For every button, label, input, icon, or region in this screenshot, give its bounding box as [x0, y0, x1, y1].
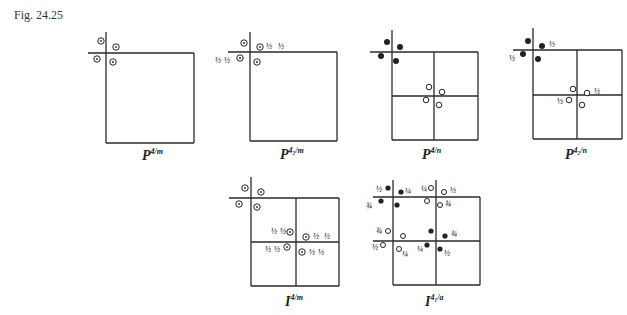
- svg-text:½: ½: [324, 232, 330, 241]
- svg-text:½: ½: [444, 249, 450, 258]
- svg-text:¼: ¼: [405, 186, 411, 195]
- diagram-p42m: ½ ½ ½ ½: [215, 32, 337, 141]
- svg-text:½: ½: [549, 40, 555, 49]
- caption-p4m: P4/m: [142, 147, 163, 164]
- svg-text:½: ½: [313, 232, 319, 241]
- svg-text:¾: ¾: [451, 229, 457, 238]
- caption-p42n: P4₂/n: [565, 146, 587, 163]
- svg-text:½: ½: [280, 227, 286, 236]
- svg-text:½: ½: [274, 245, 280, 254]
- svg-text:¾: ¾: [376, 226, 382, 235]
- circle-dot-symbol: [110, 59, 116, 65]
- svg-text:½: ½: [266, 42, 272, 51]
- svg-text:¼: ¼: [421, 184, 427, 193]
- svg-text:¾: ¾: [445, 199, 451, 208]
- svg-text:½: ½: [278, 42, 284, 51]
- svg-text:½: ½: [271, 227, 277, 236]
- caption-i41a: I4₁/a: [425, 293, 443, 310]
- svg-text:½: ½: [557, 97, 563, 106]
- svg-text:¼: ¼: [402, 249, 408, 258]
- circle-dot-symbol: [94, 56, 100, 62]
- svg-text:½: ½: [376, 185, 382, 194]
- svg-text:½: ½: [318, 248, 324, 257]
- svg-text:½: ½: [372, 243, 378, 252]
- diagram-i4m: ½ ½ ½ ½ ½ ½ ½ ½: [229, 177, 339, 286]
- diagram-p42n: ½ ½ ½ ½: [509, 28, 622, 139]
- diagram-p4m: [88, 32, 194, 143]
- caption-p42m: P4₂/m: [280, 146, 304, 163]
- diagram-i41a: ½ ¼ ¼ ½ ¾ ¾ ¾ ¾ ½ ¼ ¼ ½: [366, 180, 480, 285]
- svg-text:½: ½: [450, 186, 456, 195]
- caption-p4n: P4/n: [422, 146, 441, 163]
- svg-text:½: ½: [224, 56, 230, 65]
- svg-text:¾: ¾: [366, 201, 372, 210]
- circle-dot-symbol: [113, 44, 119, 50]
- diagram-p4n: [370, 30, 478, 140]
- svg-text:½: ½: [594, 87, 600, 96]
- svg-text:½: ½: [215, 56, 221, 65]
- svg-text:½: ½: [509, 54, 515, 63]
- circle-dot-symbol: [98, 38, 104, 44]
- caption-i4m: I4/m: [285, 293, 303, 310]
- space-group-diagrams: ½ ½ ½ ½ ½ ½ ½: [0, 0, 627, 315]
- svg-text:½: ½: [309, 248, 315, 257]
- svg-text:¼: ¼: [417, 244, 423, 253]
- svg-text:½: ½: [265, 245, 271, 254]
